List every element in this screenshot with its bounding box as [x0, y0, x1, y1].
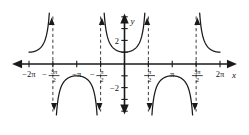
x-tick-label-7: 2π [216, 69, 225, 79]
plot-area: −2π−3π2−π−π2π2π3π22π2−2xy [0, 0, 249, 135]
x-tick-label-numerator: π [148, 68, 152, 75]
x-axis-label: x [231, 70, 236, 80]
y-axis-top-arrowhead [120, 13, 128, 23]
curve-arrowhead-1-0 [51, 103, 57, 111]
curve-arrowhead-0-1 [49, 17, 55, 25]
x-tick-label-denominator: 2 [52, 76, 55, 83]
x-tick-label-denominator: 2 [196, 76, 199, 83]
y-tick-label-0: 2 [115, 36, 119, 46]
y-axis-bottom-arrowhead [120, 105, 128, 115]
x-axis-right-arrowhead [227, 60, 237, 68]
curve-arrowhead-2-0 [99, 17, 105, 25]
x-tick-label-5: π [170, 69, 175, 79]
curve-branch-0 [29, 13, 49, 52]
curve-arrowhead-4-0 [194, 17, 200, 25]
x-tick-label-0: −2π [22, 69, 36, 79]
curve-arrowhead-3-1 [192, 103, 198, 111]
x-tick-label-6: 3π2 [192, 68, 203, 83]
curve-arrowhead-3-0 [147, 103, 153, 111]
x-tick-label-1: −3π2 [42, 68, 59, 83]
curve-branch-3 [152, 76, 193, 115]
curve-arrowhead-2-1 [144, 17, 150, 25]
curve-arrowhead-1-1 [96, 103, 102, 111]
curve-branch-1 [56, 76, 97, 115]
x-tick-label-denominator: 2 [148, 76, 151, 83]
x-tick-label-text: −2π [22, 69, 36, 79]
x-tick-label-2: −π [72, 69, 82, 79]
x-tick-label-sign: − [42, 69, 47, 79]
x-axis-left-arrowhead [12, 60, 22, 68]
x-tick-label-numerator: 3π [194, 68, 201, 75]
x-tick-label-sign: − [90, 69, 95, 79]
x-tick-label-numerator: π [100, 68, 104, 75]
y-axis-label: y [130, 16, 135, 26]
curve-branch-4 [200, 13, 220, 52]
x-tick-label-text: −π [72, 69, 82, 79]
x-tick-label-denominator: 2 [100, 76, 103, 83]
y-tick-label-1: −2 [110, 83, 119, 93]
x-tick-label-text: 2π [216, 69, 225, 79]
x-tick-label-3: −π2 [90, 68, 107, 83]
x-tick-label-numerator: 3π [51, 68, 58, 75]
x-tick-label-text: π [170, 69, 175, 79]
x-tick-label-4: π2 [144, 68, 155, 83]
secant-graph-figure: −2π−3π2−π−π2π2π3π22π2−2xy [0, 0, 249, 135]
